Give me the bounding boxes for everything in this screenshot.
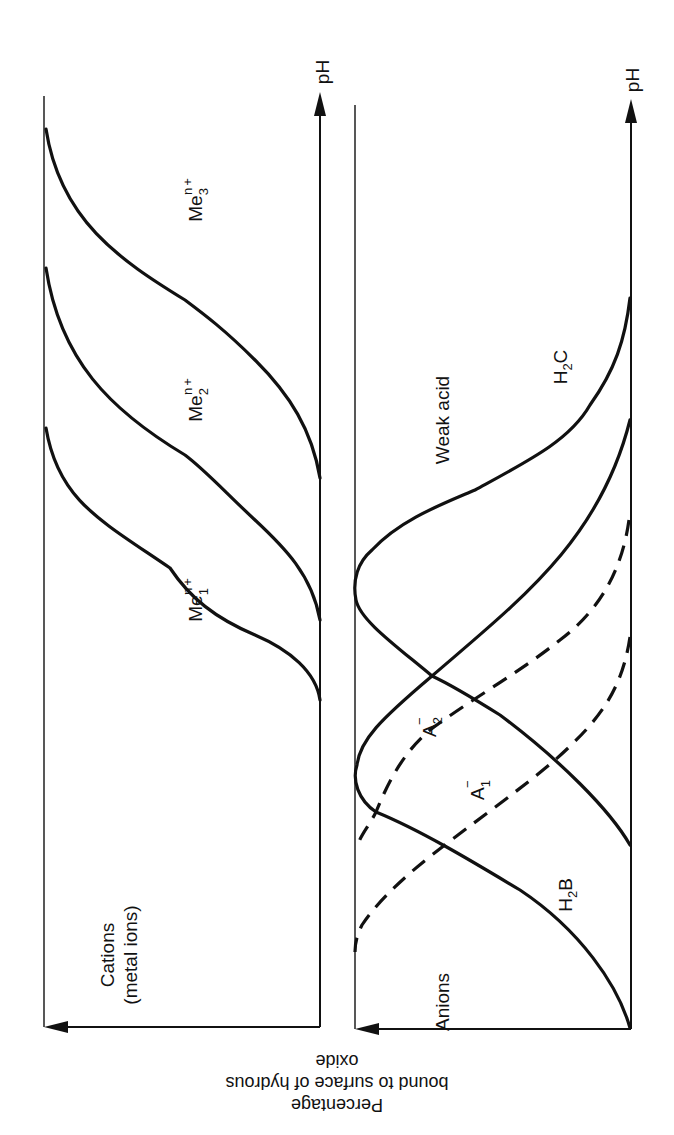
cations-title: Cations (metal ions) xyxy=(97,905,141,1004)
cations-panel: pH Me1n+ Me2n+ Me3n+ Cations (metal ions… xyxy=(44,60,333,1033)
svg-text:Percentage: Percentage xyxy=(291,1095,383,1115)
cations-percent-arrowhead-icon xyxy=(44,1021,68,1033)
anions-percent-arrowhead-icon xyxy=(355,1023,379,1035)
a1-minus-label: A1− xyxy=(460,780,493,800)
a2-minus-label: A2− xyxy=(412,717,445,737)
svg-text:A2−: A2− xyxy=(412,717,445,737)
me2-label: Me2n+ xyxy=(180,378,211,421)
curve-me2 xyxy=(46,268,320,620)
me1-label: Me1n+ xyxy=(180,578,211,621)
adsorption-figure: pH Me1n+ Me2n+ Me3n+ Cations (metal ions… xyxy=(0,0,674,1135)
curve-h2b xyxy=(355,420,630,1028)
anions-title: Anions xyxy=(432,973,453,1031)
cations-ph-label: pH xyxy=(312,60,333,84)
svg-text:Me2n+: Me2n+ xyxy=(180,378,211,421)
cations-ph-arrowhead-icon xyxy=(314,92,326,116)
anions-ph-arrowhead-icon xyxy=(625,99,637,123)
svg-text:A1−: A1− xyxy=(460,780,493,800)
curve-me1 xyxy=(46,428,320,700)
svg-text:H2C: H2C xyxy=(550,350,575,385)
svg-text:Cations: Cations xyxy=(97,923,118,987)
anions-panel: pH Weak acid H2C A2− A1− H xyxy=(355,68,643,1035)
svg-text:(metal ions): (metal ions) xyxy=(120,905,141,1004)
svg-text:oxide: oxide xyxy=(315,1051,358,1071)
svg-text:H2B: H2B xyxy=(555,878,580,912)
me3-label: Me3n+ xyxy=(180,178,211,221)
h2b-label: H2B xyxy=(555,878,580,912)
curve-a2-minus xyxy=(357,520,629,848)
svg-text:Me1n+: Me1n+ xyxy=(180,578,211,621)
svg-text:bound to surface of hydrous: bound to surface of hydrous xyxy=(225,1073,448,1093)
anions-ph-label: pH xyxy=(622,68,643,92)
svg-text:Me3n+: Me3n+ xyxy=(180,178,211,221)
y-axis-caption: Percentage bound to surface of hydrous o… xyxy=(225,1051,448,1115)
weak-acid-label: Weak acid xyxy=(432,376,453,464)
curve-h2c xyxy=(355,298,630,845)
h2c-label: H2C xyxy=(550,350,575,385)
